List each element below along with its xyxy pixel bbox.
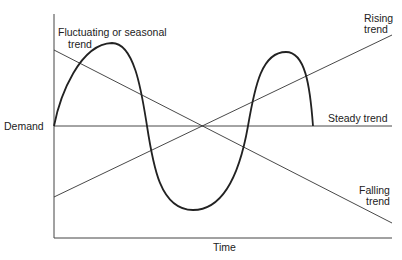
- rising-label-line2: trend: [364, 23, 388, 35]
- x-axis-label: Time: [213, 241, 236, 253]
- demand-trends-diagram: Demand Time Fluctuating or seasonal tren…: [0, 0, 402, 260]
- falling-label-line2: trend: [366, 195, 390, 207]
- fluctuating-label-line1: Fluctuating or seasonal: [58, 26, 167, 38]
- fluctuating-trend-curve: [54, 43, 313, 210]
- fluctuating-label-line2: trend: [68, 38, 92, 50]
- steady-label: Steady trend: [328, 112, 388, 124]
- falling-trend-line: [54, 50, 392, 223]
- y-axis-label: Demand: [4, 120, 44, 132]
